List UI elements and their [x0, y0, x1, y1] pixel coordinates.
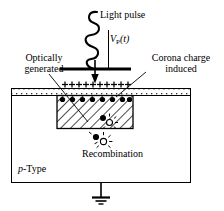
positive-corona-charge-row	[62, 82, 131, 88]
p-type-rest: -Type	[23, 163, 46, 174]
vp-argument: (t)	[120, 33, 129, 44]
ground-symbol	[92, 183, 110, 204]
diagram-svg	[0, 0, 224, 211]
optically-line2: generated	[25, 63, 64, 74]
wavy-light-arrow	[86, 12, 99, 69]
corona-line1: Corona charge	[152, 52, 210, 63]
oxide-stippled-layer	[12, 89, 190, 96]
label-recombination: Recombination	[82, 148, 143, 159]
label-p-type: p-Type	[18, 163, 46, 174]
optically-line1: Optically	[25, 52, 62, 63]
label-corona-charge-induced: Corona charge induced	[140, 52, 222, 74]
label-light-pulse: Light pulse	[100, 9, 145, 20]
light-pulse-down-arrow	[91, 60, 98, 84]
corona-line2: induced	[165, 63, 197, 74]
vp-arg-text: (t)	[120, 33, 129, 44]
label-vp-symbol: VP(t)	[110, 33, 129, 46]
label-optically-generated: Optically generated	[8, 52, 80, 74]
figure-canvas: Light pulse VP(t) Optically generated Co…	[0, 0, 224, 211]
